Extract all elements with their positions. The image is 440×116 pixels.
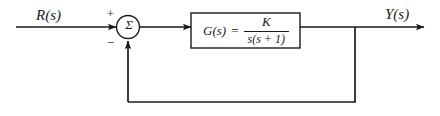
transfer-function-expression: G(s) = K s(s + 1) [196, 16, 296, 46]
transfer-function-fraction: K s(s + 1) [244, 15, 289, 47]
summing-junction-minus-sign: − [107, 36, 114, 49]
output-signal-label: Y(s) [385, 7, 409, 22]
summing-junction-plus-sign: + [107, 8, 114, 20]
block-diagram-canvas: R(s) Y(s) + − Σ G(s) = K s(s + 1) [0, 0, 440, 116]
transfer-function-equals-sign: = [230, 23, 239, 39]
summing-junction-sigma-symbol: Σ [121, 18, 137, 31]
transfer-function-numerator: K [256, 15, 277, 31]
reference-input-label: R(s) [36, 8, 61, 23]
transfer-function-lhs: G(s) [203, 23, 226, 39]
transfer-function-denominator: s(s + 1) [244, 32, 289, 47]
